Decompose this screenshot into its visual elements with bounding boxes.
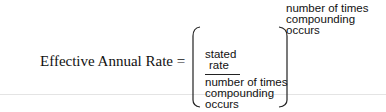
denominator-line: occurs — [205, 99, 287, 110]
denominator: number of times compounding occurs — [205, 77, 287, 110]
exponent: number of times compounding occurs — [286, 3, 368, 36]
numerator-line: rate — [205, 60, 236, 71]
numerator: stated rate — [205, 49, 236, 71]
left-bracket — [193, 27, 200, 107]
fraction-bar — [205, 74, 240, 75]
exponent-line: occurs — [286, 25, 368, 36]
